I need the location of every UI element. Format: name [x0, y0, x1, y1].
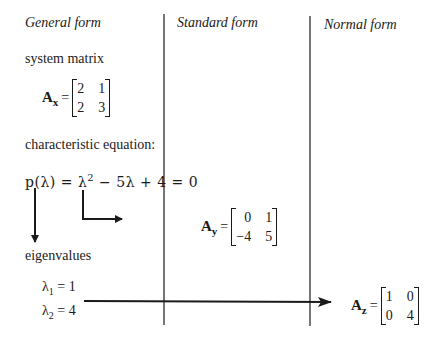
- system-matrix-label: system matrix: [25, 51, 104, 67]
- eigenvalue-1: λ1 = 1: [42, 279, 76, 297]
- characteristic-equation: p(λ) = λ2 − 5λ + 4 = 0: [25, 172, 198, 190]
- matrix-ax-values: 21 23: [72, 79, 110, 117]
- heading-normal-form: Normal form: [324, 17, 397, 33]
- bent-arrow: [83, 190, 122, 219]
- matrix-az-values: 10 04: [381, 287, 419, 325]
- eigenvalue-2: λ2 = 4: [42, 303, 76, 321]
- eigen-to-normal-arrow: [84, 301, 331, 302]
- matrix-az: Az = 10 04: [351, 287, 419, 325]
- eigenvalues-label: eigenvalues: [25, 248, 91, 264]
- matrix-ay-name: Ay: [201, 218, 217, 237]
- matrix-ay-values: 01 −45: [231, 208, 277, 246]
- heading-standard-form: Standard form: [177, 15, 258, 31]
- matrix-az-name: Az: [351, 297, 367, 316]
- heading-general-form: General form: [25, 15, 101, 31]
- characteristic-equation-label: characteristic equation:: [25, 137, 155, 153]
- matrix-ay: Ay = 01 −45: [201, 208, 277, 246]
- matrix-ax: Ax = 21 23: [42, 79, 110, 117]
- matrix-ax-name: Ax: [42, 89, 58, 108]
